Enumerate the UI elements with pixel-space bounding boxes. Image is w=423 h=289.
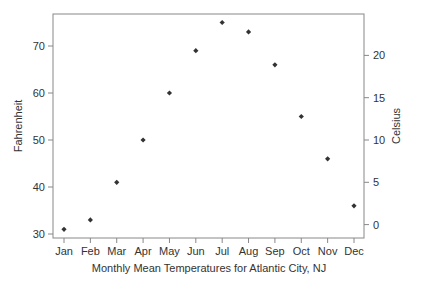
y-tick-label-right: 0 — [373, 219, 379, 231]
data-point-jul — [220, 20, 225, 25]
y-tick-label-left: 60 — [33, 87, 45, 99]
data-point-oct — [299, 114, 304, 119]
y-axis-right-ticks: 05101520 — [364, 49, 385, 230]
x-tick-label: Dec — [344, 245, 364, 257]
x-axis-label: Monthly Mean Temperatures for Atlantic C… — [92, 262, 326, 274]
y-axis-label-left: Fahrenheit — [12, 100, 24, 153]
x-tick-label: Aug — [239, 245, 259, 257]
data-point-sep — [272, 62, 277, 67]
x-tick-label: Sep — [265, 245, 285, 257]
y-tick-label-right: 20 — [373, 49, 385, 61]
y-axis-label-right: Celsius — [390, 107, 402, 144]
x-tick-label: May — [159, 245, 180, 257]
x-tick-label: Jan — [55, 245, 73, 257]
data-point-nov — [325, 156, 330, 161]
y-tick-label-right: 5 — [373, 176, 379, 188]
y-tick-label-left: 50 — [33, 134, 45, 146]
x-axis-ticks: JanFebMarAprMayJunJulAugSepOctNovDec — [55, 238, 364, 257]
data-point-may — [167, 90, 172, 95]
data-point-apr — [140, 137, 145, 142]
y-tick-label-left: 70 — [33, 40, 45, 52]
data-point-jan — [61, 227, 66, 232]
x-tick-label: Apr — [135, 245, 152, 257]
y-tick-label-right: 10 — [373, 134, 385, 146]
y-tick-label-right: 15 — [373, 92, 385, 104]
data-points — [61, 20, 356, 232]
x-tick-label: Mar — [107, 245, 126, 257]
x-tick-label: Oct — [293, 245, 310, 257]
x-tick-label: Jun — [187, 245, 205, 257]
temperature-scatter-chart: 3040506070 05101520 JanFebMarAprMayJunJu… — [0, 0, 423, 289]
data-point-mar — [114, 180, 119, 185]
x-tick-label: Jul — [215, 245, 229, 257]
data-point-jun — [193, 48, 198, 53]
y-axis-left-ticks: 3040506070 — [33, 40, 53, 240]
x-tick-label: Nov — [318, 245, 338, 257]
data-point-feb — [88, 217, 93, 222]
data-point-dec — [351, 203, 356, 208]
plot-frame — [53, 14, 364, 238]
x-tick-label: Feb — [81, 245, 100, 257]
y-tick-label-left: 40 — [33, 181, 45, 193]
y-tick-label-left: 30 — [33, 228, 45, 240]
data-point-aug — [246, 29, 251, 34]
